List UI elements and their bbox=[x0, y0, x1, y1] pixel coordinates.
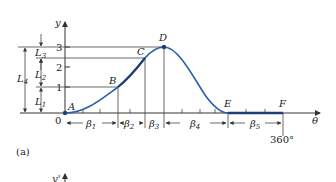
y-tick-label-2: 2 bbox=[56, 62, 62, 73]
point-F-label: F bbox=[278, 98, 287, 109]
x-axis-label: θ bbox=[312, 115, 318, 126]
L1-label: L1 bbox=[34, 96, 46, 109]
point-C-label: C bbox=[137, 46, 145, 57]
point-A-marker bbox=[63, 111, 67, 115]
rise-segment-BC bbox=[118, 58, 145, 87]
point-D-label: D bbox=[158, 32, 167, 43]
beta5-label: β5 bbox=[249, 118, 261, 131]
L4-label: L4 bbox=[16, 73, 28, 86]
displacement-curve bbox=[65, 47, 228, 113]
panel-label: (a) bbox=[16, 146, 30, 157]
y-tick-label-3: 3 bbox=[56, 42, 62, 53]
point-A-label: A bbox=[67, 101, 75, 112]
next-panel-y-label: y' bbox=[51, 173, 60, 182]
beta3-label: β3 bbox=[148, 118, 160, 131]
beta4-label: β4 bbox=[189, 118, 200, 131]
point-D-marker bbox=[162, 45, 166, 49]
origin-label: 0 bbox=[55, 115, 61, 126]
y-axis-label: y bbox=[54, 17, 61, 28]
cam-displacement-diagram: y θ 0 1 2 3 A B C D E F L1 bbox=[0, 0, 336, 182]
point-B-label: B bbox=[108, 75, 116, 86]
L2-label: L2 bbox=[34, 69, 47, 82]
beta2-label: β2 bbox=[123, 118, 135, 131]
y-tick-label-1: 1 bbox=[56, 82, 62, 93]
x-end-label: 360° bbox=[270, 134, 294, 145]
beta1-label: β1 bbox=[85, 118, 96, 131]
point-E-label: E bbox=[223, 98, 232, 109]
